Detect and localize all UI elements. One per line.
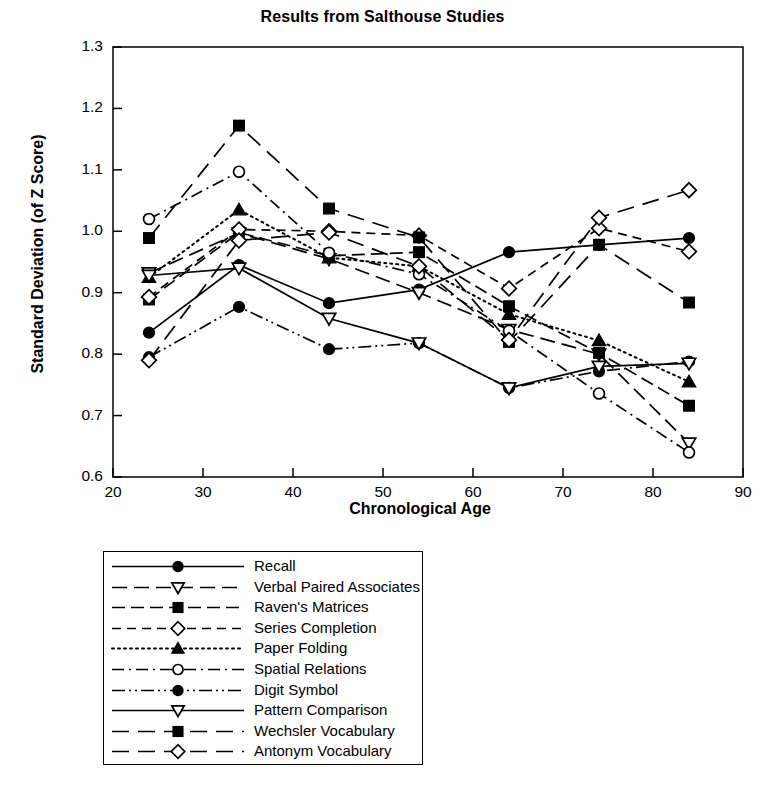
data-point-marker-filled-square bbox=[173, 726, 183, 736]
legend-label: Spatial Relations bbox=[254, 660, 367, 677]
data-point-marker-filled-circle bbox=[234, 301, 245, 312]
legend-key-glyph bbox=[110, 597, 246, 618]
legend-item[interactable]: Pattern Comparison bbox=[104, 700, 422, 721]
data-point-marker-open-diamond bbox=[682, 183, 697, 198]
legend-key-glyph bbox=[110, 721, 246, 742]
data-point-marker-open-circle bbox=[684, 447, 695, 458]
data-point-marker-filled-square bbox=[684, 297, 695, 308]
series-pattern-comparison bbox=[142, 263, 695, 394]
legend-item[interactable]: Verbal Paired Associates bbox=[104, 577, 422, 598]
legend-item[interactable]: Raven's Matrices bbox=[104, 597, 422, 618]
legend-key-glyph bbox=[110, 741, 246, 762]
data-point-marker-filled-square bbox=[144, 233, 155, 244]
legend-item[interactable]: Paper Folding bbox=[104, 638, 422, 659]
data-point-marker-filled-up-triangle bbox=[592, 334, 605, 346]
data-point-marker-open-circle bbox=[234, 166, 245, 177]
chart-legend: RecallVerbal Paired AssociatesRaven's Ma… bbox=[103, 551, 423, 765]
legend-item[interactable]: Digit Symbol bbox=[104, 680, 422, 701]
legend-key-digit-symbol bbox=[110, 680, 246, 701]
data-point-marker-filled-square bbox=[414, 232, 425, 243]
legend-key-glyph bbox=[110, 659, 246, 680]
data-point-marker-filled-square bbox=[594, 348, 605, 359]
data-point-marker-filled-circle bbox=[324, 298, 335, 309]
data-series-group bbox=[142, 120, 697, 458]
legend-key-recall bbox=[110, 556, 246, 577]
chart-figure: Results from Salthouse Studies Standard … bbox=[0, 0, 765, 796]
series-raven-s-matrices bbox=[144, 227, 695, 411]
data-point-marker-filled-circle bbox=[684, 233, 695, 244]
legend-item[interactable]: Series Completion bbox=[104, 618, 422, 639]
data-point-marker-filled-up-triangle bbox=[682, 375, 695, 387]
legend-key-glyph bbox=[110, 556, 246, 577]
legend-key-glyph bbox=[110, 680, 246, 701]
data-point-marker-filled-circle bbox=[144, 327, 155, 338]
data-point-marker-open-circle bbox=[594, 388, 605, 399]
data-point-marker-open-circle bbox=[324, 247, 335, 258]
legend-label: Paper Folding bbox=[254, 639, 347, 656]
data-point-marker-open-diamond bbox=[171, 622, 184, 635]
legend-key-glyph bbox=[110, 638, 246, 659]
data-point-marker-open-diamond bbox=[592, 210, 607, 225]
legend-item[interactable]: Antonym Vocabulary bbox=[104, 741, 422, 762]
legend-item[interactable]: Spatial Relations bbox=[104, 659, 422, 680]
data-point-marker-open-diamond bbox=[682, 244, 697, 259]
data-point-marker-filled-square bbox=[594, 239, 605, 250]
data-point-marker-filled-square bbox=[684, 400, 695, 411]
data-point-marker-filled-square bbox=[414, 247, 425, 258]
data-point-marker-open-diamond bbox=[171, 745, 184, 758]
legend-key-verbal-paired-associates bbox=[110, 577, 246, 598]
legend-label: Verbal Paired Associates bbox=[254, 578, 420, 595]
legend-key-raven-s-matrices bbox=[110, 597, 246, 618]
legend-label: Digit Symbol bbox=[254, 681, 338, 698]
data-point-marker-open-diamond bbox=[322, 225, 337, 240]
legend-key-wechsler-vocabulary bbox=[110, 721, 246, 742]
data-point-marker-open-diamond bbox=[502, 281, 517, 296]
data-point-marker-open-circle bbox=[144, 214, 155, 225]
legend-item[interactable]: Wechsler Vocabulary bbox=[104, 721, 422, 742]
axes-frame bbox=[113, 47, 743, 477]
legend-key-series-completion bbox=[110, 618, 246, 639]
legend-key-glyph bbox=[110, 577, 246, 598]
data-point-marker-filled-circle bbox=[504, 247, 515, 258]
data-point-marker-filled-square bbox=[173, 603, 183, 613]
plot-frame bbox=[113, 47, 743, 477]
legend-key-glyph bbox=[110, 618, 246, 639]
data-point-marker-filled-square bbox=[234, 120, 245, 131]
data-point-marker-filled-circle bbox=[324, 344, 335, 355]
legend-key-glyph bbox=[110, 700, 246, 721]
legend-label: Series Completion bbox=[254, 619, 377, 636]
legend-label: Pattern Comparison bbox=[254, 701, 387, 718]
legend-key-spatial-relations bbox=[110, 659, 246, 680]
data-point-marker-open-circle bbox=[173, 664, 183, 674]
data-point-marker-filled-circle bbox=[173, 685, 183, 695]
data-point-marker-filled-square bbox=[324, 203, 335, 214]
data-point-marker-filled-up-triangle bbox=[232, 203, 245, 215]
legend-label: Antonym Vocabulary bbox=[254, 742, 392, 759]
legend-key-antonym-vocabulary bbox=[110, 741, 246, 762]
legend-item[interactable]: Recall bbox=[104, 556, 422, 577]
legend-key-pattern-comparison bbox=[110, 700, 246, 721]
legend-key-paper-folding bbox=[110, 638, 246, 659]
data-point-marker-filled-circle bbox=[173, 561, 183, 571]
legend-label: Raven's Matrices bbox=[254, 598, 369, 615]
series-spatial-relations bbox=[144, 166, 695, 458]
legend-label: Recall bbox=[254, 557, 296, 574]
legend-label: Wechsler Vocabulary bbox=[254, 722, 395, 739]
